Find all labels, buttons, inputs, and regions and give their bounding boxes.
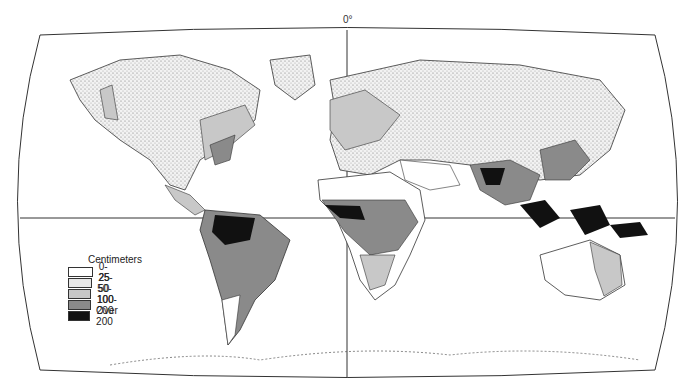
legend-swatch <box>68 267 93 277</box>
prime-meridian-label: 0° <box>343 14 353 25</box>
world-precipitation-map <box>0 0 695 389</box>
legend-swatch <box>68 278 92 288</box>
greenland <box>270 55 315 100</box>
legend-item: Over 200 <box>68 310 126 321</box>
legend-swatch <box>68 311 90 321</box>
legend-label: Over 200 <box>96 305 126 327</box>
legend-swatch <box>68 289 91 299</box>
legend-swatch <box>68 300 91 310</box>
